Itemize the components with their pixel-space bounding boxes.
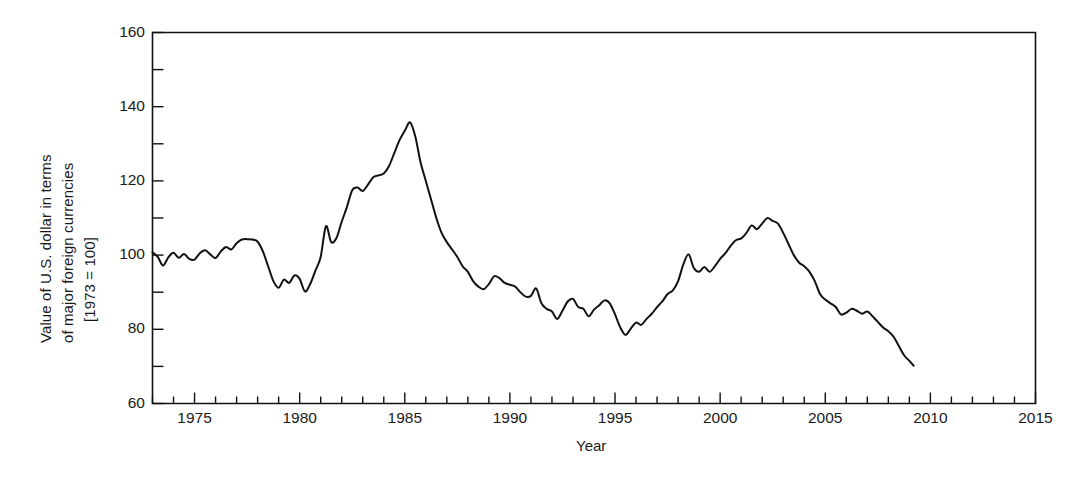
x-tick-label: 2010	[895, 409, 965, 427]
x-tick-label: 2000	[685, 409, 755, 427]
x-tick-label: 1985	[370, 409, 440, 427]
y-tick-label: 140	[85, 97, 145, 115]
x-tick-label: 1990	[475, 409, 545, 427]
y-tick-label: 60	[85, 394, 145, 412]
y-tick-label: 80	[85, 319, 145, 337]
x-tick-label: 2015	[1001, 409, 1071, 427]
figure-root: Value of U.S. dollar in terms of major f…	[0, 0, 1073, 484]
x-tick-label: 2005	[790, 409, 860, 427]
x-tick-label: 1975	[160, 409, 230, 427]
axis-ticks	[153, 33, 1036, 404]
plot-frame	[153, 33, 1036, 404]
y-tick-label: 100	[85, 245, 145, 263]
y-tick-label: 120	[85, 171, 145, 189]
x-tick-label: 1995	[580, 409, 650, 427]
data-series-group	[153, 122, 914, 365]
x-tick-label: 1980	[265, 409, 335, 427]
y-tick-label: 160	[85, 23, 145, 41]
